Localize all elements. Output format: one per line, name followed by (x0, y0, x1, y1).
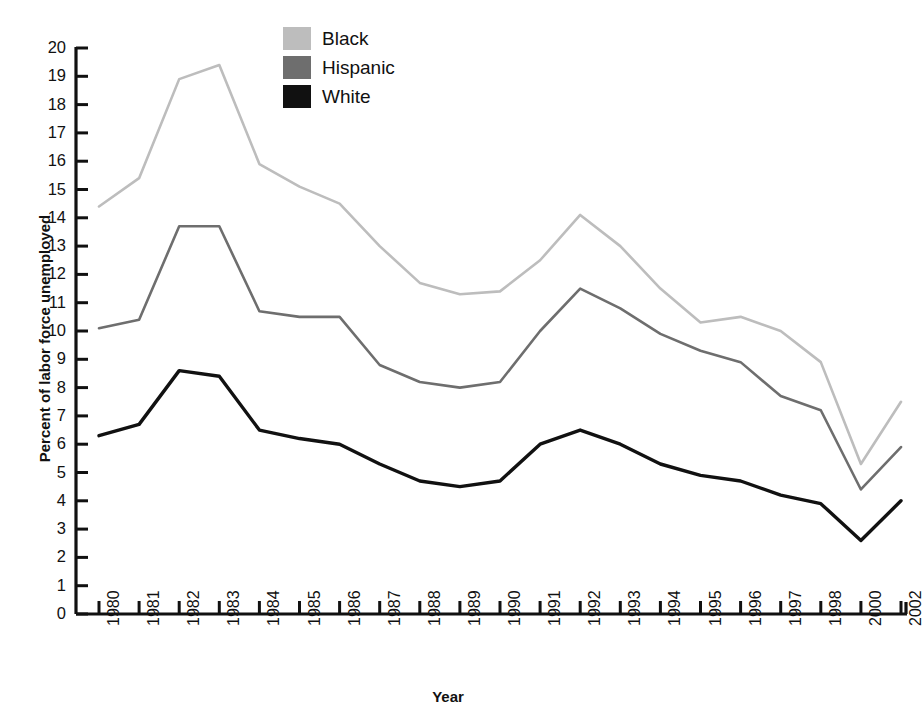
x-tick-label: 1995 (708, 590, 724, 626)
x-axis-title-text: Year (432, 688, 464, 705)
y-tick-label: 12 (32, 265, 66, 282)
x-axis-title: Year (0, 688, 916, 705)
y-tick-label: 18 (32, 96, 66, 113)
x-tick-label: 1998 (828, 590, 844, 626)
y-tick-label: 3 (32, 520, 66, 537)
series-line-black (99, 65, 901, 464)
x-tick-label: 2000 (868, 590, 884, 626)
y-tick-label: 0 (32, 605, 66, 622)
x-tick-label: 1997 (788, 590, 804, 626)
x-tick-label: 1994 (667, 590, 683, 626)
x-tick-label: 1985 (307, 590, 323, 626)
x-tick-label: 1981 (146, 590, 162, 626)
y-tick-label: 14 (32, 209, 66, 226)
y-tick-label: 6 (32, 435, 66, 452)
y-tick-label: 9 (32, 350, 66, 367)
x-tick-label: 1996 (748, 590, 764, 626)
x-tick-label: 1986 (347, 590, 363, 626)
y-tick-label: 13 (32, 237, 66, 254)
y-tick-label: 5 (32, 464, 66, 481)
y-tick-label: 2 (32, 548, 66, 565)
x-tick-label: 1989 (467, 590, 483, 626)
x-tick-label: 1980 (106, 590, 122, 626)
x-tick-label: 1991 (547, 590, 563, 626)
series-line-hispanic (99, 226, 901, 489)
y-tick-label: 20 (32, 39, 66, 56)
y-tick-label: 1 (32, 577, 66, 594)
y-tick-label: 7 (32, 407, 66, 424)
x-tick-label: 2002 (908, 590, 924, 626)
y-tick-label: 15 (32, 181, 66, 198)
x-tick-label: 1988 (427, 590, 443, 626)
x-tick-label: 1990 (507, 590, 523, 626)
x-tick-label: 1983 (226, 590, 242, 626)
x-tick-label: 1993 (627, 590, 643, 626)
y-tick-label: 11 (32, 294, 66, 311)
y-tick-label: 10 (32, 322, 66, 339)
x-tick-label: 1982 (186, 590, 202, 626)
x-tick-label: 1987 (387, 590, 403, 626)
x-tick-label: 1984 (266, 590, 282, 626)
y-tick-label: 4 (32, 492, 66, 509)
y-tick-label: 16 (32, 152, 66, 169)
y-tick-label: 8 (32, 379, 66, 396)
y-tick-label: 19 (32, 67, 66, 84)
y-tick-label: 17 (32, 124, 66, 141)
x-tick-label: 1992 (587, 590, 603, 626)
